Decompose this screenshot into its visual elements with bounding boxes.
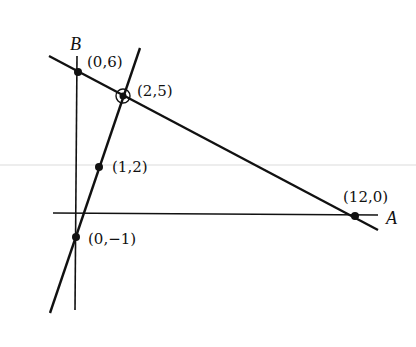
vertical-axis (75, 56, 77, 310)
point-label: (1,2) (112, 158, 148, 176)
horizontal-axis-label: A (385, 208, 398, 228)
point-2-5 (120, 93, 127, 100)
point-label: (12,0) (343, 188, 388, 206)
constraint-line-2 (50, 48, 140, 313)
point-0-neg1 (72, 233, 80, 241)
point-label: (0,−1) (88, 230, 136, 248)
point-1-2 (95, 163, 103, 171)
point-12-0 (351, 212, 359, 220)
diagram: B A (0,6) (2,5) (1,2) (12,0) (0,−1) (0, 0, 416, 347)
point-label: (2,5) (137, 82, 173, 100)
point-0-6 (74, 68, 82, 76)
constraint-line-1 (49, 56, 378, 230)
point-label: (0,6) (87, 53, 123, 71)
vertical-axis-label: B (70, 34, 81, 54)
horizontal-axis (53, 213, 378, 215)
